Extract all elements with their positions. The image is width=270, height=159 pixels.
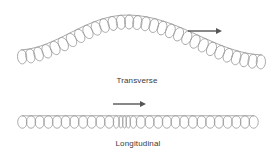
arrow-head-icon (216, 28, 222, 34)
longitudinal-coil (18, 116, 258, 128)
transverse-coil (18, 15, 266, 69)
arrow-head-icon (140, 101, 146, 107)
transverse-label: Transverse (0, 76, 270, 85)
longitudinal-label: Longitudinal (0, 139, 270, 148)
transverse-wave-group (18, 15, 266, 69)
longitudinal-wave-group (18, 101, 258, 128)
longitudinal-direction-arrow (113, 101, 146, 107)
